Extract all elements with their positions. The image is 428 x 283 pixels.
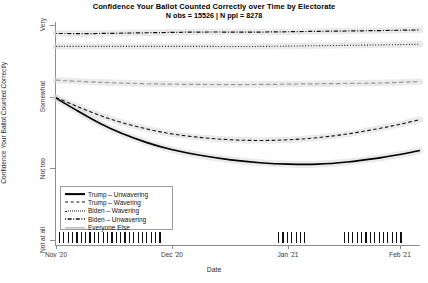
x-tick-label: Jan '21 — [277, 251, 298, 258]
confidence-band — [56, 80, 420, 84]
x-tick-label: Nov '20 — [45, 251, 67, 258]
legend-item[interactable]: Everyone Else — [64, 224, 169, 232]
legend-item[interactable]: Trump – Unwavering — [64, 190, 169, 198]
legend-key-dotted — [64, 207, 86, 215]
x-tick-label: Feb '21 — [389, 251, 411, 258]
y-tick-mark — [50, 25, 55, 26]
y-axis-label: Confidence Your Ballot Counted Correctly — [0, 0, 10, 246]
confidence-band — [56, 97, 420, 140]
legend-item[interactable]: Biden – Wavering — [64, 207, 169, 215]
chart-figure: Confidence Your Ballot Counted Correctly… — [0, 0, 428, 283]
chart-title: Confidence Your Ballot Counted Correctly… — [0, 2, 428, 11]
confidence-band — [56, 44, 420, 46]
chart-subtitle: N obs = 15526 | N ppl = 8278 — [0, 11, 428, 20]
y-tick-mark — [50, 168, 55, 169]
y-tick-label: Somewhat — [0, 77, 48, 87]
y-tick-label: Very — [0, 5, 48, 15]
x-axis-label: Date — [0, 266, 428, 273]
legend-key-gray — [64, 224, 86, 232]
legend-label: Trump – Unwavering — [86, 191, 148, 198]
legend-item[interactable]: Trump – Wavering — [64, 198, 169, 206]
legend-label: Biden – Unwavering — [86, 216, 146, 223]
legend-key-solid — [64, 190, 86, 198]
y-tick-label: Not at all — [0, 220, 48, 230]
legend-label: Biden – Wavering — [86, 207, 139, 214]
legend-key-dashed — [64, 198, 86, 206]
y-tick-mark — [50, 240, 55, 241]
chart-legend[interactable]: Trump – Unwavering Trump – Wavering Bide… — [60, 186, 173, 230]
legend-label: Trump – Wavering — [86, 199, 141, 206]
legend-label: Everyone Else — [86, 224, 130, 231]
x-tick-label: Dec '20 — [161, 251, 183, 258]
legend-key-dashdot — [64, 215, 86, 223]
y-tick-label: Not too — [0, 148, 48, 158]
legend-item[interactable]: Biden – Unwavering — [64, 215, 169, 223]
